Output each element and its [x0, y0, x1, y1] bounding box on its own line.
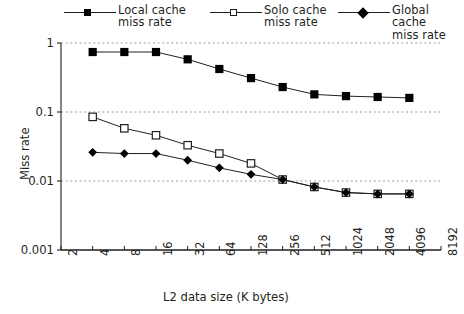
x-tick-label: 2048 [383, 227, 397, 256]
filled-diamond-icon [215, 163, 224, 172]
filled-square-icon [89, 48, 97, 56]
data-point [247, 170, 256, 179]
data-point [247, 74, 255, 82]
x-tick-label: 512 [319, 234, 333, 256]
data-point [152, 48, 160, 56]
data-point [279, 83, 287, 91]
x-tick-label: 4096 [414, 227, 428, 256]
filled-square-icon [184, 55, 192, 63]
open-square-icon [216, 150, 223, 157]
filled-diamond-icon [120, 149, 129, 158]
x-axis-title: L2 data size (K bytes) [163, 290, 289, 304]
open-square-icon [152, 132, 159, 139]
x-tick-label: 256 [288, 234, 302, 256]
open-square-icon [121, 125, 128, 132]
open-square-icon [89, 113, 96, 120]
data-point [215, 65, 223, 73]
data-point [215, 163, 224, 172]
x-tick-label: 64 [224, 242, 238, 257]
data-point [88, 148, 97, 157]
y-tick-label: 0.001 [21, 243, 54, 257]
data-point [89, 113, 96, 120]
filled-diamond-icon [183, 156, 192, 165]
data-point [405, 94, 413, 102]
x-tick-label: 16 [161, 242, 175, 257]
data-point [310, 90, 318, 98]
x-tick-label: 8 [129, 249, 143, 256]
data-point [184, 142, 191, 149]
x-tick-label: 128 [256, 234, 270, 256]
data-point [184, 55, 192, 63]
filled-square-icon [120, 48, 128, 56]
y-tick-label: 0.1 [36, 105, 54, 119]
data-point [120, 48, 128, 56]
filled-diamond-icon [88, 148, 97, 157]
data-point [121, 125, 128, 132]
filled-square-icon [405, 94, 413, 102]
y-tick-label: 1 [47, 36, 54, 50]
plot-area [0, 0, 464, 314]
open-square-icon [184, 142, 191, 149]
open-square-icon [247, 160, 254, 167]
filled-diamond-icon [152, 149, 161, 158]
filled-square-icon [279, 83, 287, 91]
data-point [120, 149, 129, 158]
filled-diamond-icon [247, 170, 256, 179]
data-point [216, 150, 223, 157]
x-tick-label: 8192 [446, 227, 460, 256]
y-tick-label: 0.01 [28, 174, 54, 188]
filled-square-icon [310, 90, 318, 98]
data-point [152, 149, 161, 158]
x-tick-label: 32 [193, 242, 207, 257]
x-tick-label: 2 [66, 249, 80, 256]
x-tick-label: 1024 [351, 227, 365, 256]
filled-square-icon [374, 93, 382, 101]
data-point [247, 160, 254, 167]
filled-square-icon [342, 92, 350, 100]
data-point [152, 132, 159, 139]
y-axis-title: Miss rate [18, 127, 32, 180]
filled-square-icon [215, 65, 223, 73]
filled-square-icon [152, 48, 160, 56]
data-point [89, 48, 97, 56]
data-point [183, 156, 192, 165]
x-tick-label: 4 [98, 249, 112, 256]
data-point [342, 92, 350, 100]
series-line-1 [93, 117, 410, 194]
filled-square-icon [247, 74, 255, 82]
data-point [374, 93, 382, 101]
chart-figure: Local cache miss rate Solo cache miss ra… [0, 0, 464, 314]
